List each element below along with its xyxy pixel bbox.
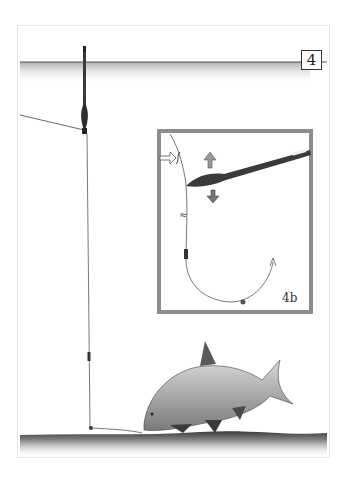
up-arrow-icon bbox=[204, 152, 216, 168]
down-arrow-icon bbox=[207, 190, 219, 203]
shot-weights-icon bbox=[184, 249, 188, 259]
shot-icon bbox=[241, 300, 246, 305]
break-mark-icon: ≈ bbox=[179, 209, 187, 220]
inset-float-icon bbox=[186, 149, 311, 187]
inset-label: 4b bbox=[282, 291, 297, 305]
inset-drawing: ≈ bbox=[0, 0, 349, 483]
pointer-arrow-icon bbox=[160, 152, 176, 164]
